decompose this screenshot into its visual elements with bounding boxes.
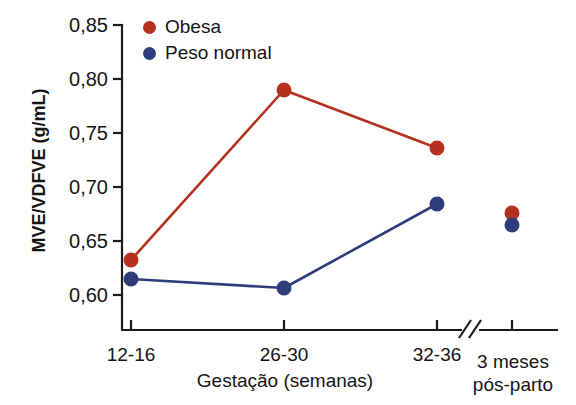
x-tick-label-3-line2: pós-parto bbox=[455, 373, 571, 396]
legend-swatch-peso-normal-icon bbox=[143, 47, 156, 60]
y-axis-ticks bbox=[113, 25, 122, 295]
chart-container: 0,85 0,80 0,75 0,70 0,65 0,60 12-16 26-3… bbox=[0, 0, 576, 405]
x-tick-label-0: 12-16 bbox=[76, 344, 186, 366]
data-point-obesa-2 bbox=[430, 141, 445, 156]
x-axis-title: Gestação (semanas) bbox=[150, 370, 420, 392]
y-tick-label-5: 0,60 bbox=[42, 284, 108, 307]
series-markers-obesa bbox=[124, 83, 520, 268]
data-point-peso-normal-1 bbox=[277, 281, 292, 296]
data-point-peso-normal-3 bbox=[505, 218, 520, 233]
legend-label-peso-normal: Peso normal bbox=[165, 42, 272, 64]
y-tick-label-4: 0,65 bbox=[42, 230, 108, 253]
series-line-obesa bbox=[131, 90, 437, 260]
y-tick-label-1: 0,80 bbox=[42, 68, 108, 91]
series-line-peso-normal bbox=[131, 204, 437, 288]
y-tick-label-3: 0,70 bbox=[42, 176, 108, 199]
legend-item-peso-normal: Peso normal bbox=[143, 40, 272, 66]
legend-swatch-obesa-icon bbox=[143, 21, 156, 34]
x-tick-label-1: 26-30 bbox=[229, 344, 339, 366]
series-markers-peso-normal bbox=[124, 197, 520, 296]
y-axis-title: MVE/VDFVE (g/mL) bbox=[29, 46, 50, 296]
y-tick-label-0: 0,85 bbox=[42, 14, 108, 37]
legend-item-obesa: Obesa bbox=[143, 14, 272, 40]
chart-legend: Obesa Peso normal bbox=[143, 14, 272, 66]
x-tick-label-3: 3 meses pós-parto bbox=[455, 350, 571, 396]
data-point-obesa-1 bbox=[277, 83, 292, 98]
data-point-peso-normal-2 bbox=[430, 197, 445, 212]
data-point-peso-normal-0 bbox=[124, 272, 139, 287]
y-tick-label-2: 0,75 bbox=[42, 122, 108, 145]
x-tick-label-3-line1: 3 meses bbox=[455, 350, 571, 373]
x-axis-ticks bbox=[131, 320, 512, 330]
data-point-obesa-0 bbox=[124, 253, 139, 268]
legend-label-obesa: Obesa bbox=[165, 16, 221, 38]
